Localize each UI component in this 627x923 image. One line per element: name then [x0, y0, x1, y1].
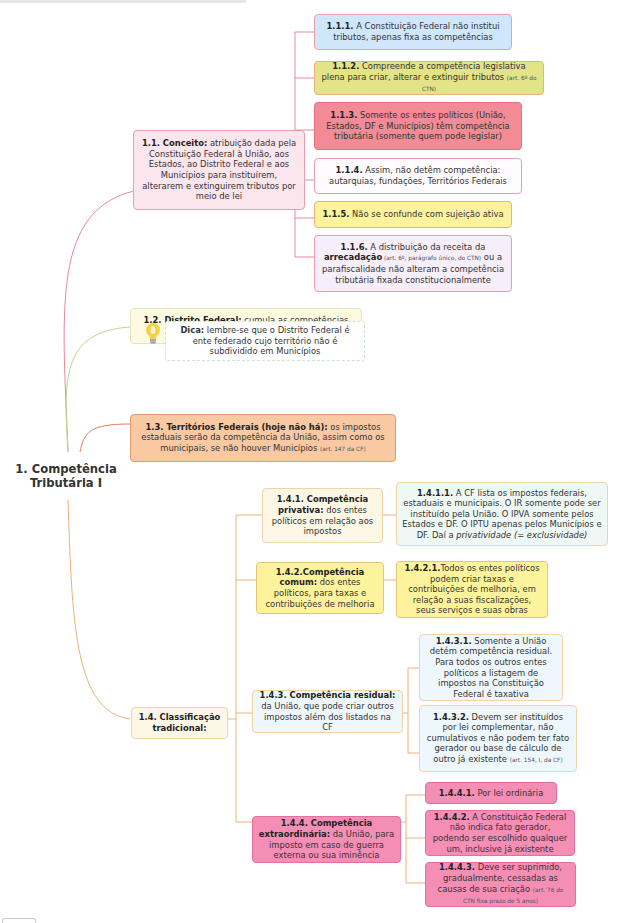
node-1-4-2-1[interactable]: 1.4.2.1.Todos os entes políticos podem c… — [396, 561, 548, 618]
node-1-4-3-1[interactable]: 1.4.3.1. Somente a União detém competênc… — [419, 634, 563, 701]
node-text: A Constituição Federal não institui trib… — [333, 21, 499, 42]
node-text: Por lei ordinária — [475, 788, 544, 798]
node-label: 1.1.1. — [326, 21, 353, 31]
node-reference: (art. 147 da CF) — [320, 446, 366, 452]
node-label: 1.1.3. — [330, 110, 357, 120]
tip-label: Dica: — [180, 325, 204, 335]
node-1-1-5[interactable]: 1.1.5. Não se confunde com sujeição ativ… — [314, 201, 512, 228]
node-label: 1.4.2.1. — [404, 563, 440, 573]
root-node[interactable]: 1. Competência Tributária I — [10, 456, 122, 496]
node-reference: (art. 6º, parágrafo único, do CTN) — [382, 255, 481, 261]
node-label: 1.4.4.2. — [434, 812, 470, 822]
node-label: 1.4.3.2. — [433, 712, 469, 722]
node-1-4-1-privativa[interactable]: 1.4.1. Competência privativa: dos entes … — [262, 488, 383, 543]
tip-text: lembre-se que o Distrito Federal é ente … — [193, 325, 350, 356]
node-reference: (art. 154, I, da CF) — [510, 757, 563, 763]
node-1-4-3-residual[interactable]: 1.4.3. Competência residual: da União, q… — [252, 690, 403, 733]
node-italic-text: privatividade (= exclusividade) — [456, 530, 587, 540]
node-1-4-4-2[interactable]: 1.4.4.2. A Constituição Federal não indi… — [425, 810, 575, 856]
node-label: 1.1.2. — [332, 61, 359, 71]
node-1-4-classificacao[interactable]: 1.4. Classificação tradicional: — [131, 707, 228, 739]
node-1-1-conceito[interactable]: 1.1. Conceito: atribuição dada pela Cons… — [133, 130, 305, 210]
node-label: 1.4.1.1. — [417, 488, 453, 498]
node-text: Não se confunde com sujeição ativa — [349, 209, 503, 219]
node-1-1-2[interactable]: 1.1.2. Compreende a competência legislat… — [314, 61, 544, 95]
node-label: 1.1.6. — [341, 242, 368, 252]
node-label: 1.1. Conceito: — [142, 138, 207, 148]
node-1-3-territorios-federais[interactable]: 1.3. Territórios Federais (hoje não há):… — [130, 414, 396, 462]
node-1-1-1[interactable]: 1.1.1. A Constituição Federal não instit… — [314, 14, 512, 50]
root-title-line2: Tributária I — [10, 476, 122, 490]
node-text: da União, que pode criar outros impostos… — [261, 701, 394, 732]
node-label: 1.1.4. — [336, 165, 363, 175]
node-label: 1.4.3. Competência residual: — [260, 690, 396, 700]
node-label: 1.3. Territórios Federais (hoje não há): — [145, 422, 327, 432]
node-1-4-4-1[interactable]: 1.4.4.1. Por lei ordinária — [425, 782, 557, 804]
node-1-4-4-3[interactable]: 1.4.4.3. Deve ser suprimido, gradualment… — [425, 862, 576, 907]
node-1-1-4[interactable]: 1.1.4. Assim, não detêm competência: aut… — [314, 158, 522, 194]
node-text: A distribuição da receita da — [368, 242, 486, 252]
node-label: 1.1.5. — [322, 209, 349, 219]
node-1-4-2-comum[interactable]: 1.4.2.Competência comum: dos entes polít… — [256, 562, 384, 614]
node-label: 1.4.4.1. — [439, 788, 475, 798]
tip-note[interactable]: Dica: lembre-se que o Distrito Federal é… — [165, 321, 365, 361]
page-tab — [2, 918, 36, 923]
node-label: 1.4. Classificação tradicional: — [139, 712, 221, 733]
node-1-1-6[interactable]: 1.1.6. A distribuição da receita da arre… — [314, 235, 512, 292]
node-1-4-1-1[interactable]: 1.4.1.1. A CF lista os impostos federais… — [396, 482, 608, 546]
node-1-4-3-2[interactable]: 1.4.3.2. Devem ser instituídos por lei c… — [419, 705, 577, 772]
lightbulb-icon — [145, 322, 161, 346]
node-1-1-3[interactable]: 1.1.3. Somente os entes políticos (União… — [314, 102, 522, 150]
node-1-4-4-extraordinaria[interactable]: 1.4.4. Competência extraordinária: da Un… — [252, 816, 401, 863]
root-title-line1: 1. Competência — [10, 462, 122, 476]
node-label: 1.4.3.1. — [436, 636, 472, 646]
node-label-2: arrecadação — [324, 252, 382, 262]
node-label: 1.4.4.3. — [439, 862, 475, 872]
